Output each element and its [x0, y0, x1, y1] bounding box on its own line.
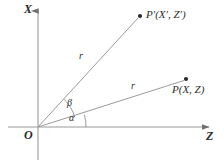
z-axis-label: Z: [206, 130, 213, 142]
point-p-prime-dot: [138, 14, 142, 18]
angle-alpha-label: α: [69, 113, 74, 123]
geometry-figure: X Z O P′(X′, Z′) P(X, Z) r r β α: [0, 0, 224, 165]
point-p-label: P(X, Z): [172, 84, 204, 95]
origin-label: O: [24, 129, 33, 141]
point-p-prime-label: P′(X′, Z′): [146, 9, 186, 20]
point-p-dot: [184, 77, 188, 81]
ray-to-p-prime-length-label: r: [79, 51, 83, 61]
x-axis-label: X: [24, 3, 32, 15]
angle-alpha-arc: [84, 115, 86, 127]
ray-to-p-length-label: r: [131, 81, 135, 91]
angle-beta-label: β: [67, 98, 72, 108]
